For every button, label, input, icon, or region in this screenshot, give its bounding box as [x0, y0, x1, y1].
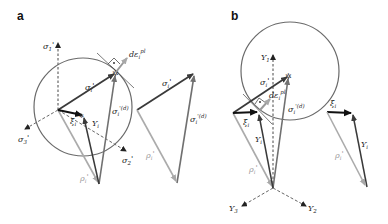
label-rho-i: ρi' [248, 163, 258, 175]
copy-vector-rho-i [137, 110, 176, 181]
label-Y2: Y2 [308, 204, 317, 214]
copy-label-rho-i: ρi' [145, 149, 155, 161]
label-sigma-tid: σi'(d) [288, 103, 305, 115]
label-sigma-tid: σi'(d) [112, 105, 129, 117]
label-d-eps: dεipl [269, 89, 286, 101]
axis-sigma3 [25, 110, 58, 129]
panel-label-a: a [17, 9, 24, 23]
vector-d-eps [260, 99, 270, 110]
right-angle-mark [255, 98, 266, 104]
label-sigma-i: σi' [260, 76, 269, 88]
label-rho-i: ρi' [79, 172, 89, 184]
vector-sigma-tid [99, 76, 115, 184]
axis-Y2 [273, 188, 306, 206]
vector-Y-i [259, 115, 273, 188]
label-xi-i: ξi [70, 117, 76, 127]
copy-label-xi-i: ξi [330, 99, 336, 109]
axis-Y3 [242, 188, 273, 206]
label-Y-i: Yi [92, 119, 99, 129]
label-Y1: Y1 [261, 53, 270, 63]
copy-label-Y-i: Yi [361, 140, 368, 150]
label-sigma1: σ1' [43, 40, 54, 52]
star-icon: ✲ [285, 72, 292, 81]
label-d-eps: dεipl [129, 48, 146, 60]
label-xi-i: ξi [243, 118, 249, 128]
label-sigma3: σ3' [18, 133, 29, 145]
panel-b: b Y1 Y3 Y2 ✲ dεipl σi' σi'(d) ξi Yi ρi' [229, 9, 368, 214]
copy-vector-sigma-tid [177, 76, 194, 183]
normal-dot [113, 62, 115, 64]
figure-canvas: a σ1' σ3' σ2' ✲ ✲ dεipl σi' σi'(d) ξi [0, 0, 388, 224]
copy-label-sigma-i: σi' [162, 77, 171, 89]
vector-sigma-i [58, 74, 114, 110]
label-sigma-i: σi' [85, 81, 94, 93]
axis-sigma2 [58, 110, 126, 151]
center-star-icon: ✲ [79, 112, 84, 119]
label-Y-i: Yi [255, 135, 262, 145]
normal-dot [259, 101, 261, 103]
vector-d-eps [116, 58, 127, 72]
label-sigma2: σ2' [122, 154, 133, 166]
copy-label-sigma-tid: σi'(d) [190, 113, 207, 125]
copy-vector-xi-i [327, 112, 351, 113]
panel-label-b: b [231, 9, 238, 23]
panel-a: a σ1' σ3' σ2' ✲ ✲ dεipl σi' σi'(d) ξi [17, 9, 207, 184]
copy-label-rho-i: ρi' [334, 149, 344, 161]
vector-xi-i [233, 112, 257, 113]
label-Y3: Y3 [229, 204, 238, 214]
